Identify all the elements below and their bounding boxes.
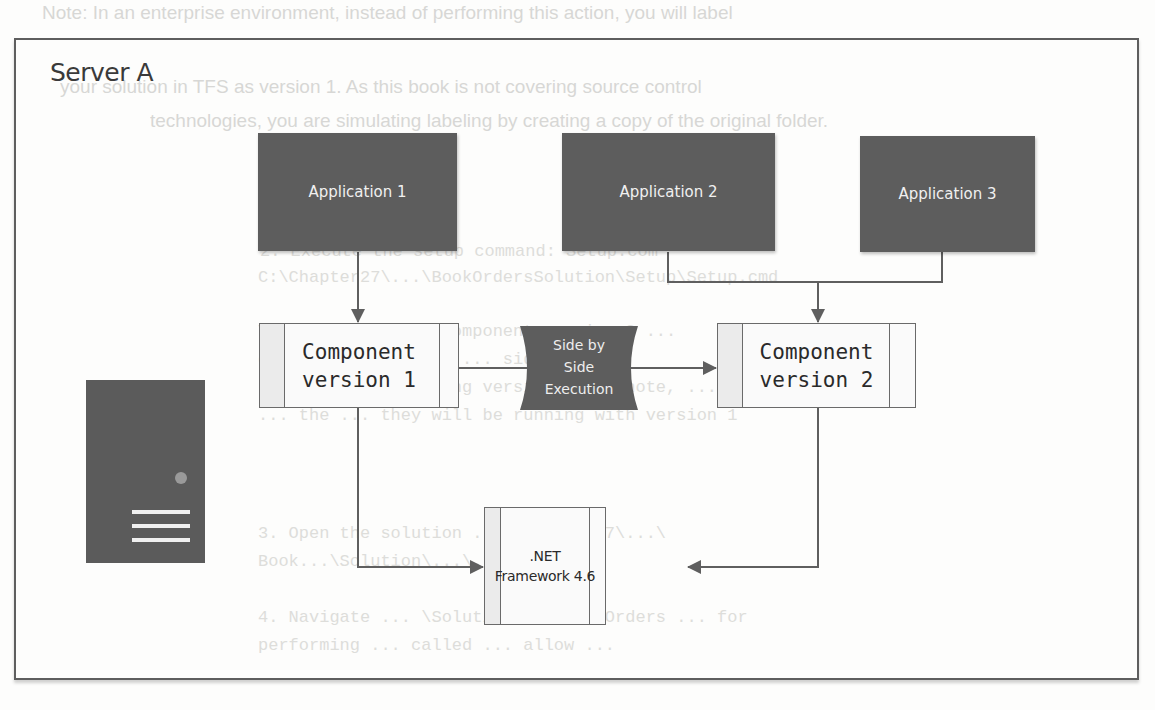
application-1-box: Application 1	[258, 133, 457, 251]
component-version-1-box: Component version 1	[259, 323, 459, 408]
application-3-box: Application 3	[860, 136, 1035, 252]
component-left-bar	[260, 324, 285, 407]
component-version-2-box: Component version 2	[717, 323, 916, 408]
edge-comp2-framework	[688, 408, 818, 567]
edge-app2-app3-merge	[668, 252, 942, 282]
component-left-bar	[718, 324, 743, 407]
component-right-bar	[889, 324, 915, 407]
application-2-box: Application 2	[562, 133, 775, 251]
component-right-bar	[439, 324, 458, 407]
net-framework-box: .NET Framework 4.6	[484, 507, 606, 625]
edge-comp1-framework	[358, 408, 483, 567]
side-by-side-execution-label: Side by Side Execution	[522, 334, 636, 400]
net-framework-label: .NET Framework 4.6	[495, 546, 595, 586]
component-version-1-label: Component version 1	[302, 338, 416, 394]
component-version-2-label: Component version 2	[760, 338, 874, 394]
server-tower-icon	[86, 380, 205, 563]
